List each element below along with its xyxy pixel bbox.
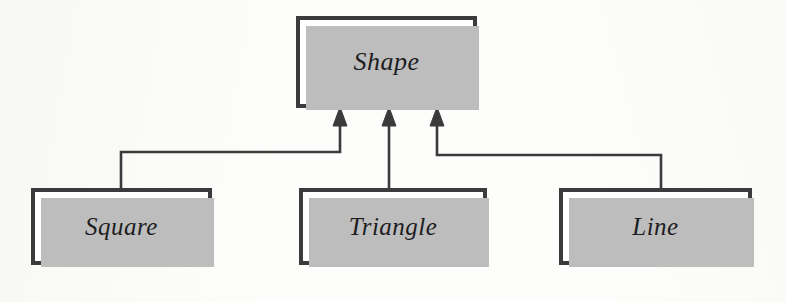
class-name-shape: Shape	[353, 49, 419, 75]
class-box-shape[interactable]: Shape	[296, 16, 477, 108]
class-diagram-canvas: Shape Square Triangle Line	[0, 0, 786, 302]
class-name-line: Line	[632, 214, 678, 239]
edge-square-to-shape	[121, 122, 340, 188]
class-name-square: Square	[85, 214, 158, 239]
class-box-triangle[interactable]: Triangle	[299, 188, 487, 265]
edge-line-to-shape	[437, 122, 661, 188]
class-box-line[interactable]: Line	[559, 188, 752, 265]
class-box-square[interactable]: Square	[31, 188, 212, 265]
class-name-triangle: Triangle	[349, 214, 438, 239]
